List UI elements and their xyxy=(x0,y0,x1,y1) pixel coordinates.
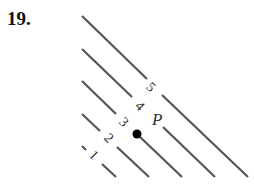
contour-line-5 xyxy=(82,16,248,177)
contour-label-3: 3 xyxy=(116,114,132,130)
contour-label-4: 4 xyxy=(132,98,148,114)
contour-label-1: 1 xyxy=(86,147,102,163)
contour-diagram: 5 4 3 2 1 P xyxy=(0,0,254,190)
point-p xyxy=(133,130,142,139)
contour-line-2 xyxy=(82,114,149,177)
point-p-label: P xyxy=(151,110,162,129)
contour-label-2: 2 xyxy=(101,130,117,146)
contour-line-4 xyxy=(82,49,215,177)
contour-label-5: 5 xyxy=(143,79,159,95)
